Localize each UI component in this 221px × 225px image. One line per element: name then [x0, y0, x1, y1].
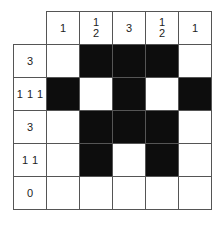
filled-cell[interactable] — [79, 110, 113, 144]
filled-cell[interactable] — [79, 143, 113, 177]
empty-cell[interactable] — [178, 44, 212, 78]
empty-cell[interactable] — [178, 176, 212, 210]
filled-cell[interactable] — [46, 77, 80, 111]
clue-number: 1 — [22, 155, 28, 166]
column-clue: 1 — [178, 11, 212, 45]
clue-number: 1 — [60, 23, 66, 34]
row-clue: 11 — [13, 143, 47, 177]
empty-cell[interactable] — [46, 176, 80, 210]
clue-number: 1 — [192, 23, 198, 34]
row-clue: 3 — [13, 44, 47, 78]
filled-cell[interactable] — [145, 110, 179, 144]
filled-cell[interactable] — [178, 77, 212, 111]
filled-cell[interactable] — [79, 44, 113, 78]
clue-number: 1 — [27, 89, 33, 100]
clue-number: 3 — [27, 56, 33, 67]
clue-number: 3 — [126, 23, 132, 34]
clue-number: 2 — [159, 28, 165, 39]
clue-number: 0 — [27, 188, 33, 199]
empty-cell[interactable] — [178, 110, 212, 144]
empty-cell[interactable] — [112, 143, 146, 177]
filled-cell[interactable] — [112, 44, 146, 78]
clue-number: 2 — [93, 28, 99, 39]
empty-cell[interactable] — [145, 176, 179, 210]
empty-cell[interactable] — [46, 44, 80, 78]
clue-number: 1 — [17, 89, 23, 100]
column-clue: 12 — [145, 11, 179, 45]
clue-number: 3 — [27, 122, 33, 133]
column-clue: 3 — [112, 11, 146, 45]
filled-cell[interactable] — [112, 110, 146, 144]
filled-cell[interactable] — [145, 44, 179, 78]
row-clue: 3 — [13, 110, 47, 144]
empty-cell[interactable] — [112, 176, 146, 210]
empty-cell[interactable] — [46, 143, 80, 177]
row-clue: 111 — [13, 77, 47, 111]
row-clue: 0 — [13, 176, 47, 210]
empty-cell[interactable] — [46, 110, 80, 144]
empty-cell[interactable] — [178, 143, 212, 177]
column-clue: 1 — [46, 11, 80, 45]
filled-cell[interactable] — [145, 143, 179, 177]
clue-number: 1 — [37, 89, 43, 100]
filled-cell[interactable] — [112, 77, 146, 111]
empty-cell[interactable] — [79, 176, 113, 210]
empty-cell[interactable] — [145, 77, 179, 111]
empty-cell[interactable] — [79, 77, 113, 111]
column-clue: 12 — [79, 11, 113, 45]
clue-number: 1 — [32, 155, 38, 166]
